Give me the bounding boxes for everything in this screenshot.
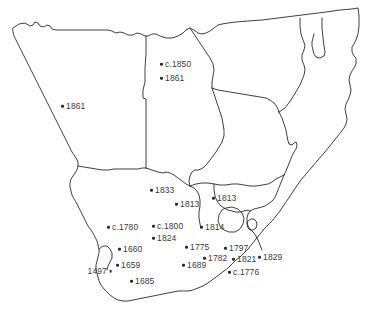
marker-dot-icon bbox=[107, 226, 110, 229]
marker-label: 1659 bbox=[121, 261, 140, 270]
marker-dot-icon bbox=[61, 105, 64, 108]
marker-dot-icon bbox=[152, 237, 155, 240]
marker-label: 1797 bbox=[229, 244, 248, 253]
marker-dot-icon bbox=[130, 280, 133, 283]
marker-label: 1861 bbox=[66, 102, 85, 111]
marker-dot-icon bbox=[185, 246, 188, 249]
marker-dot-icon bbox=[200, 226, 203, 229]
marker-dot-icon bbox=[175, 203, 178, 206]
map-marker[interactable]: 1659 bbox=[116, 261, 140, 270]
marker-label: c.1800 bbox=[157, 222, 183, 231]
marker-label: 1497 bbox=[88, 267, 107, 276]
map-marker[interactable]: 1829 bbox=[258, 253, 282, 262]
map-marker[interactable]: 1775 bbox=[185, 243, 209, 252]
marker-dot-icon bbox=[232, 258, 235, 261]
map-marker[interactable]: 1660 bbox=[118, 245, 142, 254]
marker-dot-icon bbox=[228, 271, 231, 274]
marker-label: c.1780 bbox=[112, 223, 138, 232]
marker-label: 1861 bbox=[165, 74, 184, 83]
marker-label: 1775 bbox=[190, 243, 209, 252]
map-marker[interactable]: 1821 bbox=[232, 255, 256, 264]
map-marker[interactable]: 1824 bbox=[152, 234, 176, 243]
map-marker[interactable]: c.1850 bbox=[160, 60, 191, 69]
marker-dot-icon bbox=[224, 247, 227, 250]
map-marker[interactable]: 1813 bbox=[175, 200, 199, 209]
marker-dot-icon bbox=[182, 264, 185, 267]
map-marker[interactable]: 1814 bbox=[200, 223, 224, 232]
marker-dot-icon bbox=[160, 77, 163, 80]
marker-dot-icon bbox=[152, 225, 155, 228]
marker-label: 1782 bbox=[208, 254, 227, 263]
marker-dot-icon bbox=[109, 270, 112, 273]
map-marker[interactable]: 1861 bbox=[61, 102, 85, 111]
marker-label: c.1776 bbox=[233, 268, 259, 277]
marker-dot-icon bbox=[118, 248, 121, 251]
map-marker[interactable]: c.1780 bbox=[107, 223, 138, 232]
marker-label: c.1850 bbox=[165, 60, 191, 69]
marker-dot-icon bbox=[150, 189, 153, 192]
map-marker[interactable]: 1797 bbox=[224, 244, 248, 253]
marker-label: 1814 bbox=[205, 223, 224, 232]
map-marker[interactable]: c.1800 bbox=[152, 222, 183, 231]
marker-dot-icon bbox=[116, 264, 119, 267]
map-marker[interactable]: 1861 bbox=[160, 74, 184, 83]
map-marker[interactable]: 1685 bbox=[130, 277, 154, 286]
marker-label: 1833 bbox=[155, 186, 174, 195]
marker-label: 1689 bbox=[187, 261, 206, 270]
marker-dot-icon bbox=[212, 197, 215, 200]
marker-label: 1685 bbox=[135, 277, 154, 286]
map-marker[interactable]: 1497 bbox=[88, 267, 112, 276]
map-marker[interactable]: 1813 bbox=[212, 194, 236, 203]
map-marker[interactable]: 1833 bbox=[150, 186, 174, 195]
map-container: c.1850 1861 1861 1833 1813 1813 c.1780 c… bbox=[0, 0, 384, 312]
marker-label: 1821 bbox=[237, 255, 256, 264]
map-marker[interactable]: c.1776 bbox=[228, 268, 259, 277]
marker-dot-icon bbox=[160, 63, 163, 66]
marker-label: 1660 bbox=[123, 245, 142, 254]
map-marker[interactable]: 1689 bbox=[182, 261, 206, 270]
landmass-outline bbox=[13, 8, 359, 301]
map-marker[interactable]: 1782 bbox=[203, 254, 227, 263]
marker-label: 1813 bbox=[180, 200, 199, 209]
marker-label: 1824 bbox=[157, 234, 176, 243]
marker-label: 1829 bbox=[263, 253, 282, 262]
marker-dot-icon bbox=[258, 256, 261, 259]
marker-label: 1813 bbox=[217, 194, 236, 203]
